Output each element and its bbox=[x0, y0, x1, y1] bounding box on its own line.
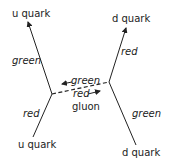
d-quark-bottom-label: d quark bbox=[122, 148, 160, 158]
green-color-label: green bbox=[12, 56, 41, 66]
gluon-label: gluon bbox=[72, 102, 100, 112]
gluon-red-label: red bbox=[73, 89, 90, 99]
u-quark-top-label: u quark bbox=[12, 9, 50, 19]
gluon-green-label: green bbox=[71, 76, 100, 86]
d-quark-top-label: d quark bbox=[112, 14, 150, 24]
green-color-label: green bbox=[132, 109, 161, 119]
red-color-label: red bbox=[121, 47, 138, 57]
red-color-label: red bbox=[23, 109, 40, 119]
u-quark-bottom-label: u quark bbox=[18, 140, 56, 150]
